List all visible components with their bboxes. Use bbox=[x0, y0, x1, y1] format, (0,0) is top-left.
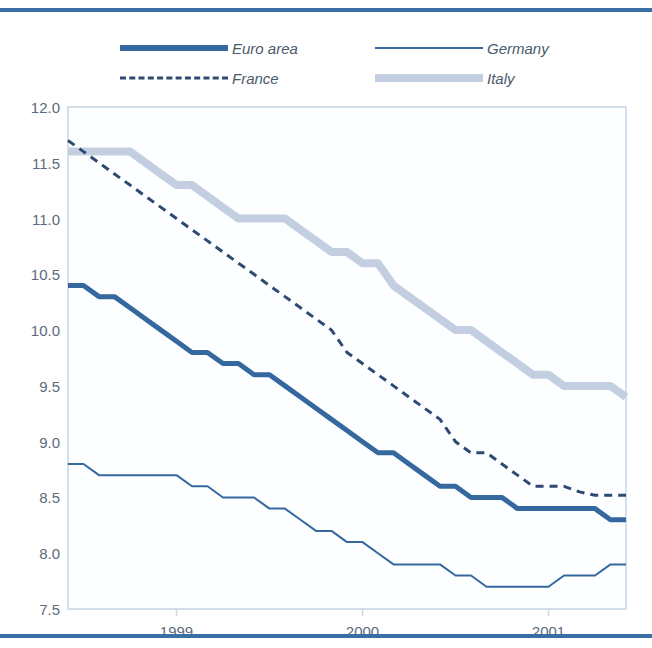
legend-label-germany: Germany bbox=[487, 40, 549, 57]
y-tick-label: 8.0 bbox=[8, 545, 60, 562]
bottom-divider-rule bbox=[0, 634, 652, 638]
y-tick-label: 8.5 bbox=[8, 489, 60, 506]
plot-svg bbox=[0, 94, 652, 634]
y-tick-label: 11.5 bbox=[8, 154, 60, 171]
y-tick-label: 10.5 bbox=[8, 266, 60, 283]
legend-label-euro-area: Euro area bbox=[232, 40, 298, 57]
y-tick-label: 10.0 bbox=[8, 322, 60, 339]
plot-area: 12.011.511.010.510.09.59.08.58.07.5 1999… bbox=[0, 94, 652, 634]
legend-item-italy: Italy bbox=[375, 66, 575, 90]
y-tick-label: 9.5 bbox=[8, 377, 60, 394]
chart-figure: Euro area Germany France Italy 12.011.51… bbox=[0, 0, 652, 648]
legend-item-france: France bbox=[120, 66, 330, 90]
legend-item-germany: Germany bbox=[375, 36, 575, 60]
y-tick-label: 7.5 bbox=[8, 601, 60, 618]
y-tick-label: 9.0 bbox=[8, 433, 60, 450]
y-tick-label: 12.0 bbox=[8, 99, 60, 116]
top-divider-rule bbox=[0, 8, 652, 12]
legend-label-france: France bbox=[232, 70, 279, 87]
plot-frame bbox=[68, 107, 626, 616]
legend-label-italy: Italy bbox=[487, 70, 515, 87]
legend-swatch-france-icon bbox=[120, 70, 228, 86]
legend-swatch-germany-icon bbox=[375, 40, 483, 56]
legend-swatch-italy-icon bbox=[375, 70, 483, 86]
chart-legend: Euro area Germany France Italy bbox=[120, 36, 540, 92]
y-tick-label: 11.0 bbox=[8, 210, 60, 227]
legend-item-euro-area: Euro area bbox=[120, 36, 330, 60]
legend-swatch-euro-area-icon bbox=[120, 40, 228, 56]
